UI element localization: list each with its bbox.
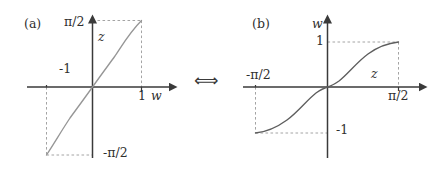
panel-b-y-axis-label: w: [312, 18, 323, 31]
panel-b-x-axis-label: z: [371, 68, 378, 81]
panel-b-graphics: [0, 0, 430, 174]
panel-b: (b) w 1 -1 -π/2 π/2 z: [0, 0, 430, 174]
panel-b-ytick-bottom: -1: [336, 124, 348, 137]
panel-b-ytick-top: 1: [316, 35, 324, 48]
panel-b-xtick-left: -π/2: [246, 69, 271, 82]
panel-b-label: (b): [252, 18, 270, 31]
figure-container: (a) π/2 -π/2 -1 1 w z ⟺: [0, 0, 430, 174]
panel-b-xtick-right: π/2: [388, 90, 408, 103]
